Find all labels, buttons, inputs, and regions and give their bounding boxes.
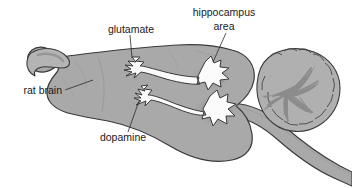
rat-brain-diagram: rat brain glutamate hippocampus area dop… [0,0,352,188]
cerebellum [257,49,340,132]
label-dopamine: dopamine [100,131,146,143]
label-hippocampus-area: area [213,20,234,32]
label-rat-brain: rat brain [23,84,62,96]
label-glutamate: glutamate [108,23,154,35]
diagram-canvas: rat brain glutamate hippocampus area dop… [0,0,352,188]
label-hippocampus: hippocampus [193,6,255,18]
